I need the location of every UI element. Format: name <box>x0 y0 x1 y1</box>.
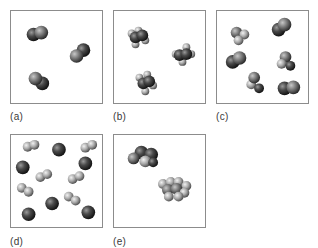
light-diatomic <box>23 140 40 152</box>
dark-atom <box>52 143 66 157</box>
polyatomic-molecule <box>172 43 195 66</box>
dark-atom <box>45 197 59 211</box>
light-molecule <box>246 72 264 94</box>
light-diatomic <box>68 171 85 184</box>
label-a: (a) <box>10 111 23 122</box>
label-e: (e) <box>113 236 126 247</box>
molecules-a <box>11 11 102 103</box>
polyatomic-molecule <box>128 27 150 49</box>
molecules-c <box>217 11 308 103</box>
light-diatomic <box>35 169 52 182</box>
dark-cluster-molecule <box>128 146 158 168</box>
molecules-d <box>11 135 102 227</box>
panel-d <box>10 134 103 228</box>
light-molecule <box>277 51 296 71</box>
light-diatomic <box>80 140 97 153</box>
label-b: (b) <box>113 111 126 122</box>
panel-b <box>113 10 206 104</box>
dark-atom <box>81 205 95 219</box>
molecules-b <box>114 11 205 103</box>
dark-diatomic <box>272 18 292 37</box>
molecules-e <box>114 135 205 227</box>
light-diatomic <box>17 183 34 197</box>
dark-atom <box>79 157 93 171</box>
dark-atom <box>22 207 36 221</box>
label-c: (c) <box>216 111 229 122</box>
dark-atom <box>16 160 30 174</box>
light-cluster-molecule <box>158 177 191 201</box>
diatomic-molecule <box>29 72 50 91</box>
dark-diatomic <box>226 51 247 69</box>
diatomic-molecule <box>70 43 91 63</box>
light-molecule <box>231 27 250 46</box>
panel-e <box>113 134 206 228</box>
diatomic-molecule <box>27 26 49 42</box>
panel-a <box>10 10 103 104</box>
panel-c <box>216 10 309 104</box>
light-diatomic <box>64 192 81 206</box>
label-d: (d) <box>10 236 23 247</box>
dark-diatomic <box>278 80 301 95</box>
polyatomic-molecule <box>136 71 158 95</box>
